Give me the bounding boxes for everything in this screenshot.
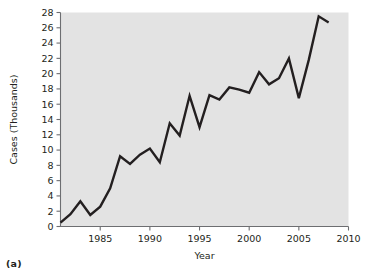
y-tick-label: 18 <box>41 83 53 94</box>
y-axis-ticks: 0246810121416182022242628 <box>41 7 60 232</box>
x-tick-label: 2005 <box>287 233 311 244</box>
x-axis-title: Year <box>193 250 214 261</box>
y-tick-label: 2 <box>47 206 53 217</box>
x-tick-label: 1990 <box>138 233 162 244</box>
y-tick-label: 6 <box>47 175 53 186</box>
y-tick-label: 8 <box>47 160 53 171</box>
figure-panel: 0246810121416182022242628198519901995200… <box>0 0 384 279</box>
x-axis-ticks: 198519901995200020052010 <box>88 227 360 245</box>
x-tick-label: 1995 <box>187 233 211 244</box>
y-axis-title: Cases (Thousands) <box>8 74 19 164</box>
y-tick-label: 0 <box>47 221 53 232</box>
y-tick-label: 10 <box>41 144 53 155</box>
plot-background <box>61 13 349 227</box>
y-tick-label: 12 <box>41 129 53 140</box>
x-tick-label: 2010 <box>336 233 360 244</box>
figure-caption: (a) <box>6 258 22 269</box>
y-tick-label: 24 <box>41 37 53 48</box>
line-chart: 0246810121416182022242628198519901995200… <box>0 0 384 279</box>
y-tick-label: 14 <box>41 114 53 125</box>
y-tick-label: 26 <box>41 22 53 33</box>
x-tick-label: 2000 <box>237 233 261 244</box>
y-tick-label: 4 <box>47 190 53 201</box>
x-tick-label: 1985 <box>88 233 112 244</box>
y-tick-label: 16 <box>41 99 53 110</box>
y-tick-label: 20 <box>41 68 53 79</box>
y-tick-label: 28 <box>41 7 53 18</box>
y-tick-label: 22 <box>41 53 53 64</box>
